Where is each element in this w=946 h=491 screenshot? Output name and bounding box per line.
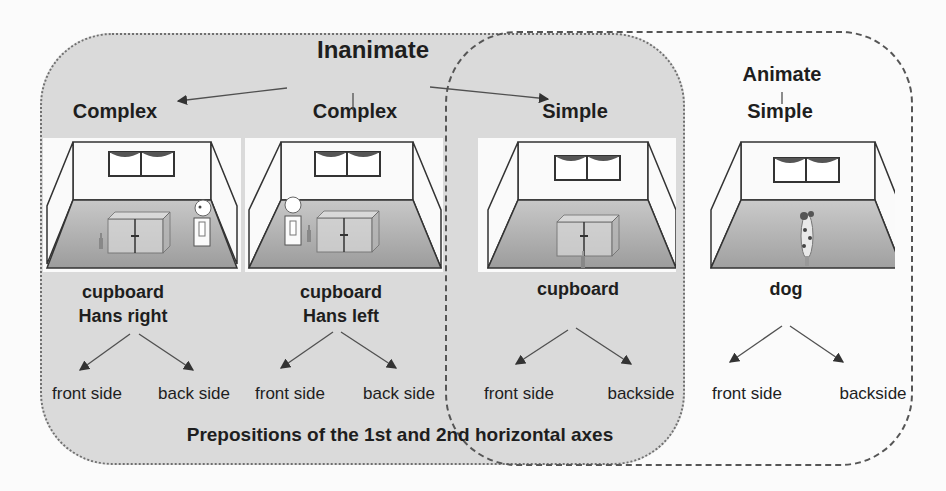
- object-label-1: cupboard Hans right: [78, 280, 167, 328]
- animate-heading: Animate: [743, 63, 822, 86]
- complexity-label-1: Complex: [73, 100, 157, 123]
- side-label-front-1: front side: [52, 384, 122, 404]
- cupboard-icon: [557, 215, 619, 256]
- room-scene-dog: [697, 138, 895, 272]
- object-label-1-line-2: Hans right: [78, 304, 167, 328]
- person-hans-icon: [194, 200, 211, 246]
- object-label-2-line-2: Hans left: [300, 304, 382, 328]
- object-label-3-line-1: cupboard: [537, 277, 619, 301]
- cupboard-icon: [317, 211, 379, 252]
- person-hans-icon: [285, 197, 301, 245]
- object-label-2-line-1: cupboard: [300, 280, 382, 304]
- object-label-1-line-1: cupboard: [78, 280, 167, 304]
- side-label-front-4: front side: [712, 384, 782, 404]
- side-label-back-1: back side: [158, 384, 230, 404]
- complexity-label-4: Simple: [747, 100, 813, 123]
- side-label-back-2: back side: [363, 384, 435, 404]
- inanimate-heading: Inanimate: [317, 36, 429, 64]
- object-label-4: dog: [770, 277, 803, 301]
- side-label-back-4: backside: [839, 384, 906, 404]
- side-label-back-3: backside: [607, 384, 674, 404]
- footer-caption: Prepositions of the 1st and 2nd horizont…: [187, 424, 614, 446]
- side-label-front-2: front side: [255, 384, 325, 404]
- room-scene-cupboard: [478, 138, 676, 272]
- object-label-4-line-1: dog: [770, 277, 803, 301]
- room-scene-hans-left: [245, 138, 443, 272]
- complexity-label-2: Complex: [313, 100, 397, 123]
- complexity-label-3: Simple: [542, 100, 608, 123]
- side-label-front-3: front side: [484, 384, 554, 404]
- object-label-2: cupboard Hans left: [300, 280, 382, 328]
- room-scene-hans-right: [43, 138, 241, 272]
- object-label-3: cupboard: [537, 277, 619, 301]
- cupboard-icon: [108, 212, 170, 253]
